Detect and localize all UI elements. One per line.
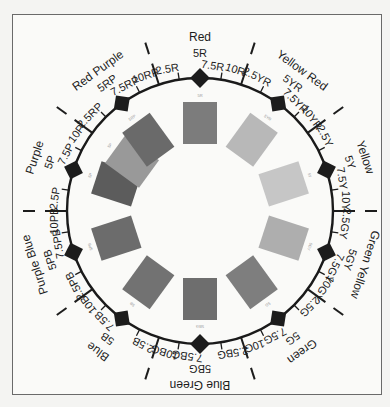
hue-step-label: 7.5G — [262, 326, 289, 348]
hue-tick — [136, 86, 139, 92]
patch-notation: 5BG — [196, 324, 204, 329]
patch-notation: 5RP — [127, 113, 137, 122]
color-patch: 5G — [226, 255, 283, 316]
hue-tick — [101, 112, 106, 117]
patch-notation: 5YR — [263, 113, 272, 122]
hue-tick — [75, 271, 81, 274]
hue-family-name: Purple — [23, 138, 47, 176]
patch-notation: 5B — [128, 301, 135, 308]
color-patch: 5Y — [258, 158, 317, 206]
patch-notation: 5P — [87, 172, 93, 179]
boundary-tick-outer — [251, 368, 255, 379]
hue-step-label: 2.5B — [130, 335, 156, 356]
hue-step-label: 2.5RP — [75, 100, 105, 130]
hue-family-name: Blue Green — [170, 378, 231, 392]
hue-step-label: 2.5Y — [315, 123, 336, 149]
munsell-hue-wheel: 5R5YR5Y5GY5G5BG5B5PB5P5P5RP2.5R5R7.5R10R… — [0, 0, 390, 407]
hue-diamond-marker — [270, 311, 286, 327]
patch-notation: 5PB — [87, 242, 94, 251]
hue-tick — [260, 330, 263, 336]
hue-tick — [260, 86, 263, 92]
hue-tick — [294, 305, 299, 310]
hue-tick — [75, 147, 81, 150]
color-patch: 5B — [117, 255, 174, 316]
color-patch: 5PB — [83, 216, 142, 264]
boundary-tick-outer — [333, 107, 343, 114]
hue-diamond-marker — [317, 160, 336, 179]
hue-tick — [101, 305, 106, 310]
color-patches: 5R5YR5Y5GY5G5BG5B5PB5P5P5RP — [83, 93, 318, 329]
patch-notation: 5GY — [306, 242, 313, 251]
hue-step-label: 5R — [193, 47, 207, 59]
hue-tick — [319, 271, 325, 274]
hue-step-label: 7.5Y — [335, 166, 350, 191]
color-patch: 5R — [183, 93, 217, 144]
hue-tick — [319, 147, 325, 150]
color-patch: 5GY — [258, 216, 317, 264]
hue-step-label: 2.5P — [47, 186, 62, 210]
hue-tick — [294, 112, 299, 117]
hue-diamond-marker — [270, 95, 286, 111]
boundary-tick-outer — [145, 43, 149, 54]
boundary-tick-outer — [57, 107, 67, 114]
patch-notation: 5G — [264, 301, 271, 308]
boundary-tick-outer — [333, 308, 343, 315]
hue-diamond-marker — [190, 334, 210, 354]
hue-step-label: 2.5GY — [337, 207, 354, 240]
hue-family-name: Yellow — [353, 139, 377, 176]
patch-notation: 5Y — [307, 172, 313, 179]
hue-diamond-marker — [114, 311, 130, 327]
hue-step-label: 7.5R — [200, 58, 225, 73]
boundary-tick-outer — [251, 43, 255, 54]
boundary-tick-outer — [57, 308, 67, 315]
boundary-tick-outer — [145, 368, 149, 379]
hue-diamond-marker — [190, 68, 210, 88]
patch-notation: 5R — [197, 93, 202, 98]
hue-family-name: Red — [189, 30, 211, 44]
hue-tick — [136, 330, 139, 336]
color-patch: 5BG — [183, 278, 217, 329]
color-patch: 5YR — [226, 106, 283, 167]
patch-notation: 5P — [106, 142, 113, 149]
hue-diamond-marker — [114, 95, 130, 111]
hue-diamond-marker — [64, 243, 83, 262]
